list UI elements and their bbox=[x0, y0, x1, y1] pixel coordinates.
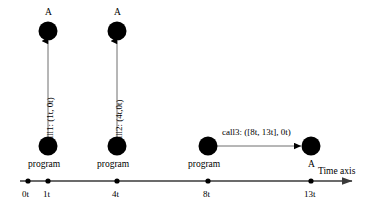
call-label-2: call2: (4t,0t) bbox=[115, 100, 124, 145]
node-a-3 bbox=[302, 137, 321, 156]
axis-tick-dot-8t bbox=[205, 178, 210, 183]
node-a-1-label: A bbox=[45, 8, 52, 18]
axis-tick-dot-0t bbox=[25, 178, 30, 183]
node-a-2-label: A bbox=[114, 8, 121, 18]
axis-tick-dot-13t bbox=[308, 178, 313, 183]
axis-tick-label-1t: 1t bbox=[43, 190, 50, 199]
node-program-3 bbox=[199, 137, 218, 156]
axis-tick-label-8t: 8t bbox=[203, 190, 210, 199]
node-a-3-label: A bbox=[308, 160, 315, 170]
node-a-2 bbox=[108, 22, 127, 41]
call-label-3: call3: ([8t, 13t], 0t) bbox=[222, 128, 291, 137]
time-axis bbox=[20, 178, 352, 183]
axis-tick-dot-1t bbox=[45, 178, 50, 183]
axis-tick-label-4t: 4t bbox=[112, 190, 119, 199]
axis-tick-label-13t: 13t bbox=[304, 190, 316, 199]
time-axis-label: Time axis bbox=[318, 167, 355, 177]
program-label-2: program bbox=[97, 160, 129, 170]
axis-tick-dot-4t bbox=[114, 178, 119, 183]
program-label-3: program bbox=[188, 160, 220, 170]
timeline-call-diagram: A A call1: (1t, 0t) call2: (4t,0t) call3… bbox=[0, 0, 380, 212]
call-label-1: call1: (1t, 0t) bbox=[46, 97, 55, 144]
node-a-1 bbox=[39, 22, 58, 41]
program-label-1: program bbox=[28, 160, 60, 170]
axis-tick-label-0t: 0t bbox=[22, 190, 29, 199]
diagram-canvas bbox=[0, 0, 380, 212]
